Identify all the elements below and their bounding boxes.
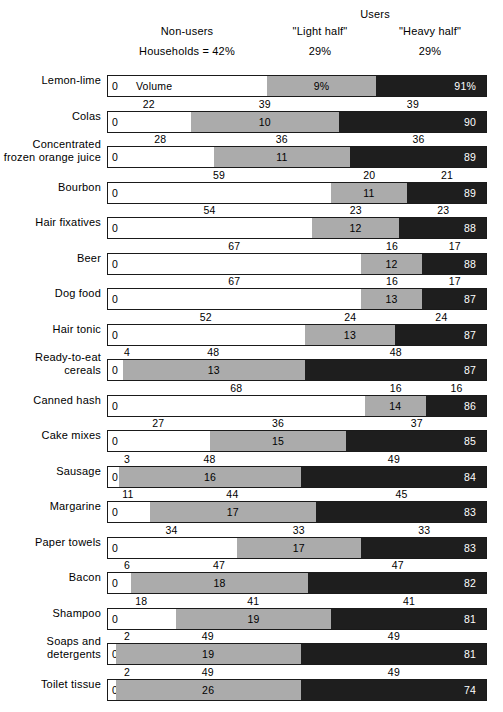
households-value: 22 bbox=[107, 98, 191, 111]
product-label: Margarine bbox=[0, 500, 101, 513]
stacked-bar: 01783 bbox=[107, 501, 487, 523]
bar-segment-nonusers bbox=[108, 112, 191, 132]
volume-value: 74 bbox=[301, 680, 486, 700]
chart-row: 24949Toilet tissue02674 bbox=[0, 666, 503, 701]
product-label-line: Hair fixatives bbox=[0, 216, 101, 229]
volume-value: 0 bbox=[112, 289, 118, 309]
volume-value: 14 bbox=[365, 396, 425, 416]
households-value: 45 bbox=[316, 488, 487, 501]
households-value: 36 bbox=[213, 133, 350, 146]
product-label-line: Hair tonic bbox=[0, 323, 101, 336]
volume-value: 84 bbox=[301, 467, 486, 487]
households-value: 24 bbox=[396, 311, 487, 324]
stacked-bar: 01189 bbox=[107, 146, 487, 168]
households-value: 47 bbox=[308, 559, 487, 572]
product-label: Hair fixatives bbox=[0, 216, 101, 229]
volume-value: 11 bbox=[214, 147, 350, 167]
heavy-half-stacked-bar-chart: Users Non-users "Light half" "Heavy half… bbox=[0, 0, 503, 712]
bar-segment-nonusers bbox=[108, 254, 361, 274]
households-value: 67 bbox=[107, 240, 362, 253]
product-label: Bourbon bbox=[0, 181, 101, 194]
households-numbers-strip: 114445 bbox=[107, 488, 487, 501]
chart-header: Users Non-users "Light half" "Heavy half… bbox=[0, 0, 503, 62]
stacked-bar: 01387 bbox=[107, 359, 487, 381]
stacked-bar: 01585 bbox=[107, 430, 487, 452]
product-label-line: Soaps and bbox=[0, 635, 101, 648]
product-label: Dog food bbox=[0, 287, 101, 300]
stacked-bar: 01387 bbox=[107, 288, 487, 310]
bar-segment-nonusers bbox=[108, 76, 267, 96]
households-value: 48 bbox=[122, 346, 304, 359]
product-label-line: Margarine bbox=[0, 500, 101, 513]
volume-value-text: 87 bbox=[464, 364, 486, 376]
volume-value-text: 88 bbox=[464, 258, 486, 270]
volume-value: 0 bbox=[112, 609, 118, 629]
households-value: 28 bbox=[107, 133, 213, 146]
product-label-line: Ready-to-eat bbox=[0, 351, 101, 364]
households-numbers-strip: 671617 bbox=[107, 240, 487, 253]
chart-row: 64747Bacon01882 bbox=[0, 559, 503, 594]
product-label-line: Sausage bbox=[0, 465, 101, 478]
households-numbers-strip: 343333 bbox=[107, 524, 487, 537]
volume-value-text: 88 bbox=[464, 222, 486, 234]
product-label-line: Canned hash bbox=[0, 394, 101, 407]
households-numbers-strip: 283636 bbox=[107, 133, 487, 146]
volume-value: 0 bbox=[112, 254, 118, 274]
product-label-line: Lemon-lime bbox=[0, 74, 101, 87]
volume-value-text: 81 bbox=[464, 613, 486, 625]
stacked-bar: 01288 bbox=[107, 217, 487, 239]
volume-value: 89 bbox=[350, 147, 486, 167]
volume-value: 85 bbox=[346, 431, 486, 451]
households-value: 18 bbox=[107, 595, 175, 608]
chart-row: 114445Margarine01783 bbox=[0, 488, 503, 523]
households-value: 52 bbox=[107, 311, 305, 324]
product-label-line: Shampoo bbox=[0, 607, 101, 620]
stacked-bar: 02674 bbox=[107, 679, 487, 701]
product-label-line: Bourbon bbox=[0, 181, 101, 194]
product-label: Soaps anddetergents bbox=[0, 635, 101, 660]
volume-value-text: 85 bbox=[464, 435, 486, 447]
product-label-line: Cake mixes bbox=[0, 429, 101, 442]
households-value: 49 bbox=[301, 630, 487, 643]
households-value: 37 bbox=[346, 417, 487, 430]
households-value: 24 bbox=[305, 311, 396, 324]
chart-row: 592021Bourbon01189 bbox=[0, 169, 503, 204]
bar-segment-nonusers bbox=[108, 396, 365, 416]
chart-row: 671617Dog food01387 bbox=[0, 275, 503, 310]
stacked-bar: 09%91%Volume bbox=[107, 75, 487, 97]
volume-value: 0 bbox=[112, 396, 118, 416]
bar-segment-nonusers bbox=[108, 431, 210, 451]
households-value: 21 bbox=[407, 169, 487, 182]
households-value: 49 bbox=[301, 453, 487, 466]
volume-value: 0 bbox=[112, 218, 118, 238]
households-value: 41 bbox=[175, 595, 331, 608]
volume-value-text: 86 bbox=[464, 400, 486, 412]
households-value: 44 bbox=[149, 488, 316, 501]
households-value: 68 bbox=[107, 382, 365, 395]
volume-value: 87 bbox=[305, 360, 486, 380]
product-label: Bacon bbox=[0, 571, 101, 584]
chart-row: 44848Ready-to-eatcereals01387 bbox=[0, 346, 503, 381]
households-value: 39 bbox=[191, 98, 339, 111]
chart-row: 343333Paper towels01783 bbox=[0, 524, 503, 559]
chart-row: 681616Canned hash01486 bbox=[0, 382, 503, 417]
legend-label-light-half: "Light half" bbox=[267, 25, 373, 37]
households-value: 48 bbox=[118, 453, 300, 466]
households-percent-heavy-half: 29% bbox=[373, 45, 487, 57]
stacked-bar: 01486 bbox=[107, 395, 487, 417]
volume-value-text: 89 bbox=[464, 151, 486, 163]
volume-value: 9% bbox=[267, 76, 377, 96]
bar-segment-nonusers bbox=[108, 325, 305, 345]
product-label: Hair tonic bbox=[0, 323, 101, 336]
households-numbers-strip: 24949 bbox=[107, 666, 487, 679]
households-numbers-strip: 273637 bbox=[107, 417, 487, 430]
volume-value-text: 89 bbox=[464, 187, 486, 199]
volume-value: 0 bbox=[112, 360, 118, 380]
legend-label-nonusers: Non-users bbox=[107, 25, 267, 37]
households-value: 34 bbox=[107, 524, 236, 537]
volume-value: 0 bbox=[112, 502, 118, 522]
households-numbers-strip: 223939 bbox=[107, 98, 487, 111]
product-label: Shampoo bbox=[0, 607, 101, 620]
households-value: 23 bbox=[400, 204, 487, 217]
volume-value-text: 74 bbox=[464, 684, 486, 696]
